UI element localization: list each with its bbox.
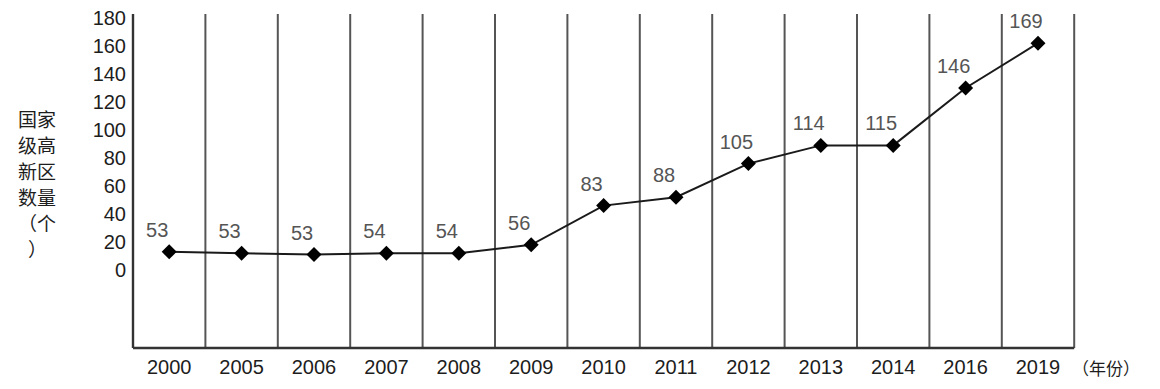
data-point-marker[interactable] bbox=[162, 244, 177, 259]
data-point-label: 83 bbox=[557, 174, 627, 194]
data-point-marker[interactable] bbox=[524, 237, 539, 252]
data-point-marker[interactable] bbox=[1031, 36, 1046, 51]
data-point-label: 54 bbox=[339, 221, 409, 241]
data-point-marker[interactable] bbox=[596, 198, 611, 213]
x-axis-tick-label: 2019 bbox=[993, 355, 1083, 379]
data-point-label: 146 bbox=[919, 56, 989, 76]
data-point-label: 105 bbox=[701, 132, 771, 152]
data-point-marker[interactable] bbox=[741, 156, 756, 171]
data-point-label: 54 bbox=[412, 221, 482, 241]
data-point-label: 53 bbox=[122, 220, 192, 240]
chart-container: 国家 级高 新区 数量 （个 ） 18016014012010080604020… bbox=[0, 0, 1160, 389]
data-point-label: 88 bbox=[629, 165, 699, 185]
data-point-marker[interactable] bbox=[669, 190, 684, 205]
data-point-label: 53 bbox=[267, 223, 337, 243]
x-axis-title: （年份） bbox=[1072, 358, 1140, 380]
data-point-label: 114 bbox=[774, 113, 844, 133]
data-point-marker[interactable] bbox=[307, 247, 322, 262]
data-point-marker[interactable] bbox=[813, 138, 828, 153]
data-point-label: 115 bbox=[846, 113, 916, 133]
data-point-label: 56 bbox=[484, 213, 554, 233]
data-point-marker[interactable] bbox=[234, 246, 249, 261]
data-point-label: 53 bbox=[195, 221, 265, 241]
data-point-label: 169 bbox=[991, 11, 1061, 31]
x-axis-tick-labels: 2000200520062007200820092010201120122013… bbox=[0, 355, 1160, 389]
data-point-marker[interactable] bbox=[379, 246, 394, 261]
data-point-marker[interactable] bbox=[451, 246, 466, 261]
